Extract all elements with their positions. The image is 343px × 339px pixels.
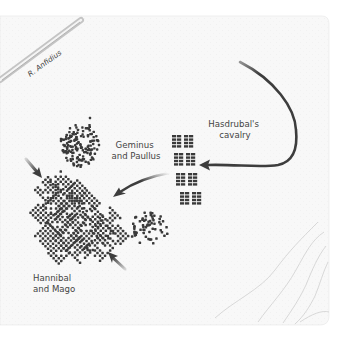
hannibal-mago-label: Hannibal and Mago [33, 273, 75, 294]
geminus-paullus-label: Geminus and Paullus [111, 140, 161, 161]
battle-map: R. Anfidius Geminus and Paullus Hannibal… [0, 0, 343, 339]
